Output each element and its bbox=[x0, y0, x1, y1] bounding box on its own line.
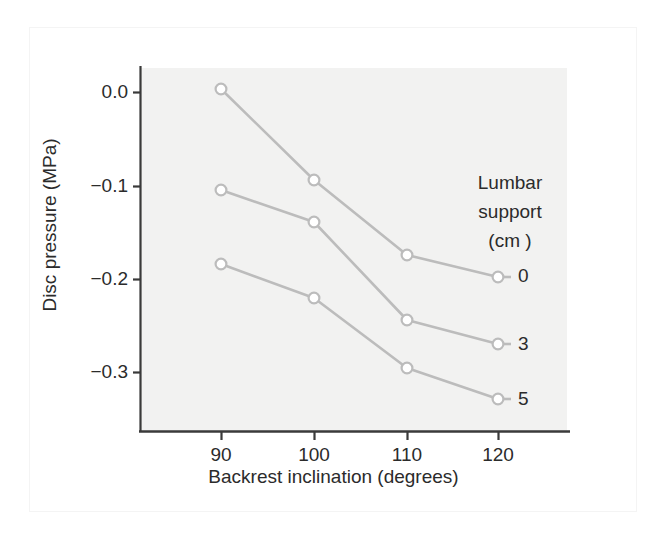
x-axis-ticks bbox=[222, 432, 499, 440]
legend-title-line-3: (cm ) bbox=[455, 226, 565, 255]
legend-title: Lumbar support (cm ) bbox=[455, 168, 565, 255]
x-tick-label-3: 120 bbox=[463, 444, 533, 466]
x-tick-label-1: 100 bbox=[279, 444, 349, 466]
x-axis-title: Backrest inclination (degrees) bbox=[0, 466, 667, 488]
y-axis-title: Disc pressure (MPa) bbox=[39, 138, 61, 311]
series-label-3: 3 bbox=[518, 333, 529, 355]
legend-title-line-2: support bbox=[455, 197, 565, 226]
series-line-5 bbox=[221, 264, 511, 399]
series-label-0: 0 bbox=[518, 265, 529, 287]
y-axis-title-wrapper: Disc pressure (MPa) bbox=[30, 100, 70, 350]
series-label-5: 5 bbox=[518, 388, 529, 410]
y-tick-label-3: −0.3 bbox=[60, 361, 128, 383]
x-tick-label-0: 90 bbox=[186, 444, 256, 466]
figure-container: 0.0 −0.1 −0.2 −0.3 90 100 110 120 Backre… bbox=[0, 0, 667, 539]
x-tick-label-2: 110 bbox=[372, 444, 442, 466]
legend-title-line-1: Lumbar bbox=[455, 168, 565, 197]
y-tick-label-1: −0.1 bbox=[60, 175, 128, 197]
y-tick-label-0: 0.0 bbox=[60, 81, 128, 103]
y-tick-label-2: −0.2 bbox=[60, 268, 128, 290]
